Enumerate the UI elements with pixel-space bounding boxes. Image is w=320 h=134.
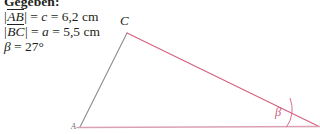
side-ac-line bbox=[80, 33, 127, 127]
angle-label-beta: β bbox=[275, 106, 281, 119]
vertex-label-a: A bbox=[71, 123, 76, 131]
side-cb-line bbox=[127, 33, 318, 126]
side-ab-line bbox=[77, 127, 320, 128]
triangle-drawing bbox=[0, 0, 320, 134]
geometry-figure-screenshot: Gegeben: |AB| = c = 6,2 cm |BC| = a = 5,… bbox=[0, 0, 320, 134]
vertex-label-c: C bbox=[120, 14, 129, 27]
